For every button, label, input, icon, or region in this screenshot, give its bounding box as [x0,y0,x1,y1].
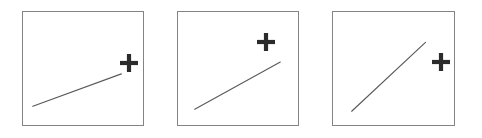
panel-3-canvas [333,12,454,125]
panel-3-trend-line [352,42,426,111]
panel-2-canvas [178,12,298,125]
panel-1-trend-line [33,74,122,106]
panel-2-trend-line [195,62,281,109]
panel-1 [22,11,144,126]
figure-container [0,0,482,138]
panel-3 [332,11,455,126]
panel-2 [177,11,299,126]
panel-1-canvas [23,12,143,125]
